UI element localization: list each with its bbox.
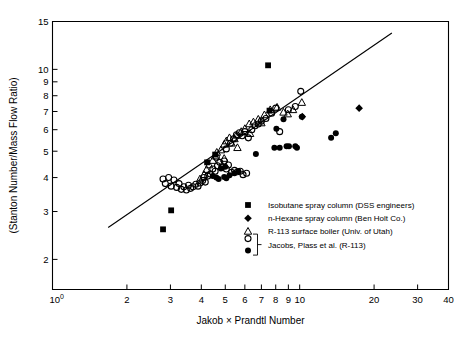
x-tick-label: 10: [294, 294, 305, 305]
legend-label: n-Hexane spray column (Ben Holt Co.): [268, 214, 406, 223]
legend-label: Isobutane spray column (DSS engineers): [268, 201, 415, 210]
marker-filled-circle: [245, 248, 251, 254]
x-tick-label: 5: [223, 294, 228, 305]
marker-filled-square: [265, 62, 271, 68]
x-tick-label: 40: [443, 294, 454, 305]
marker-filled-circle: [294, 145, 300, 151]
marker-filled-circle: [333, 130, 339, 136]
y-tick-label: 4: [43, 172, 48, 183]
x-tick-label: 4: [199, 294, 204, 305]
figure-container: 1002345678910203040 234567891015 Isobuta…: [0, 0, 465, 343]
y-tick-label: 6: [43, 124, 48, 135]
marker-filled-circle: [328, 135, 334, 141]
x-tick-label: 7: [259, 294, 264, 305]
x-tick-label: 30: [412, 294, 423, 305]
y-tick-label: 15: [38, 16, 49, 27]
x-tick-label: 8: [273, 294, 278, 305]
marker-filled-square: [160, 226, 166, 232]
y-tick-label: 10: [38, 64, 49, 75]
scatter-plot: 1002345678910203040 234567891015 Isobuta…: [0, 0, 465, 343]
y-tick-label: 2: [43, 254, 48, 265]
marker-filled-circle: [222, 164, 228, 170]
marker-filled-circle: [253, 151, 259, 157]
marker-filled-square: [245, 202, 251, 208]
marker-filled-circle: [280, 116, 286, 122]
y-tick-label: 3: [43, 206, 48, 217]
x-tick-label: 2: [124, 294, 129, 305]
x-axis-title: Jakob × Prandtl Number: [196, 315, 305, 326]
y-tick-label: 9: [43, 76, 48, 87]
marker-filled-circle: [299, 114, 305, 120]
marker-filled-square: [168, 207, 174, 213]
legend-label: Jacobs, Plass et al. (R-113): [268, 241, 366, 250]
x-tick-label: 20: [369, 294, 380, 305]
x-tick-label: 6: [242, 294, 247, 305]
marker-filled-circle: [286, 143, 292, 149]
x-tick-label: 3: [168, 294, 173, 305]
x-tick-label: 9: [286, 294, 291, 305]
marker-filled-circle: [216, 176, 222, 182]
legend-label: R-113 surface boiler (Univ. of Utah): [268, 227, 393, 236]
y-tick-label: 8: [43, 90, 48, 101]
marker-filled-circle: [271, 145, 277, 151]
marker-filled-circle: [273, 126, 279, 132]
legend-entry-1: n-Hexane spray column (Ben Holt Co.): [244, 214, 406, 223]
y-axis-title: (Stanton Number/Mass Flow Ratio): [8, 77, 19, 233]
marker-filled-circle: [277, 145, 283, 151]
legend-entry-0: Isobutane spray column (DSS engineers): [245, 201, 415, 210]
y-tick-label: 7: [43, 106, 48, 117]
marker-filled-circle: [235, 168, 241, 174]
y-tick-label: 5: [43, 146, 48, 157]
